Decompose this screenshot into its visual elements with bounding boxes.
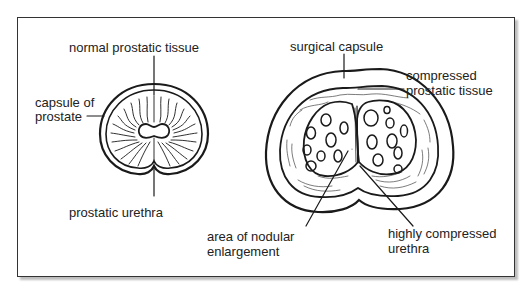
label-surgical-capsule: surgical capsule [290, 39, 383, 54]
label-compressed-prostatic-tissue-line1: compressed [406, 68, 477, 83]
label-area-of-nodular-enlargement-line1: area of nodular [207, 229, 294, 244]
label-normal-prostatic-tissue: normal prostatic tissue [69, 40, 199, 55]
label-highly-compressed-urethra-line1: highly compressed [388, 226, 496, 241]
normal-prostate-illustration [87, 56, 208, 196]
label-prostatic-urethra: prostatic urethra [69, 205, 163, 220]
label-compressed-prostatic-tissue-line2: prostatic tissue [406, 83, 493, 98]
label-area-of-nodular-enlargement-line2: enlargement [207, 244, 279, 259]
label-highly-compressed-urethra-line2: urethra [388, 241, 429, 256]
label-capsule-of-prostate-line2: prostate [35, 109, 82, 124]
label-capsule-of-prostate-line1: capsule of [35, 95, 94, 110]
